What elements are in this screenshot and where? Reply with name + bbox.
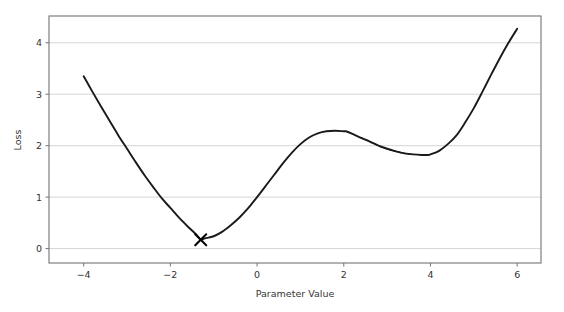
x-tick-label-5: 6 — [514, 269, 520, 280]
plot-area-background — [49, 16, 541, 263]
y-axis-label: Loss — [12, 130, 23, 151]
loss-landscape-plot: −4−20246 01234 Parameter Value Loss — [0, 0, 564, 312]
x-tick-label-3: 2 — [341, 269, 347, 280]
x-tick-label-2: 0 — [254, 269, 260, 280]
y-tick-label-3: 3 — [36, 89, 42, 100]
y-tick-label-4: 4 — [36, 37, 42, 48]
x-axis-label: Parameter Value — [256, 288, 335, 299]
y-tick-label-1: 1 — [36, 192, 42, 203]
y-tick-label-0: 0 — [36, 243, 42, 254]
y-tick-label-2: 2 — [36, 140, 42, 151]
x-tick-label-4: 4 — [427, 269, 433, 280]
chart-figure: −4−20246 01234 Parameter Value Loss — [0, 0, 564, 312]
x-tick-label-1: −2 — [163, 269, 177, 280]
x-tick-label-0: −4 — [77, 269, 91, 280]
